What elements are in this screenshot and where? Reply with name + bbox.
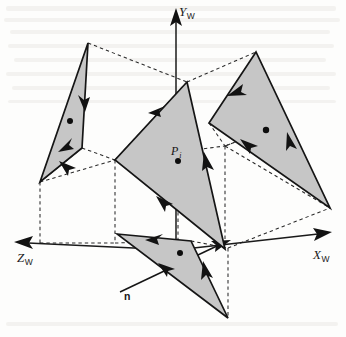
polygon-center-arrow-2 xyxy=(202,152,214,171)
world-coordinate-polygon-figure: YW XW ZW Pi n xyxy=(0,0,346,337)
polygon-front-centroid-dot xyxy=(177,250,183,256)
z-axis-label: ZW xyxy=(17,250,33,267)
polygon-left[interactable] xyxy=(40,43,90,182)
normal-vector-label: n xyxy=(124,290,130,302)
polygon-left-centroid-dot xyxy=(67,118,73,124)
x-axis-label: XW xyxy=(312,247,329,264)
figure-root: YW XW ZW Pi n xyxy=(0,0,346,337)
polygon-left-face[interactable] xyxy=(40,43,88,182)
polygon-center[interactable] xyxy=(115,82,225,249)
polygon-left-arrow-3 xyxy=(59,161,76,176)
polygon-right-centroid-dot xyxy=(263,127,269,133)
x-axis-line xyxy=(176,234,318,250)
